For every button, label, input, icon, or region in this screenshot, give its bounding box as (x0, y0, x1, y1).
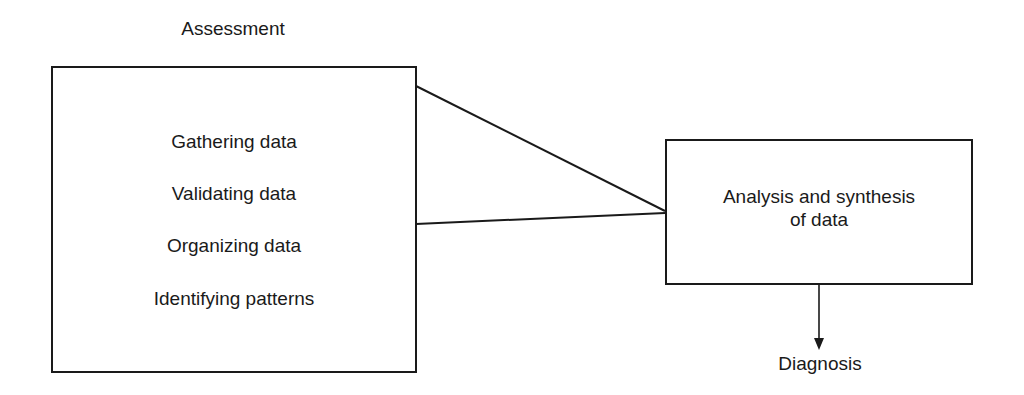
diagnosis-label: Diagnosis (778, 353, 861, 375)
step-validating-data: Validating data (172, 183, 296, 205)
assessment-box: Gathering data Validating data Organizin… (51, 66, 417, 373)
step-identifying-patterns: Identifying patterns (154, 288, 315, 310)
upper-connector-line (416, 86, 665, 211)
arrowhead-icon (814, 338, 824, 350)
analysis-box: Analysis and synthesis of data (665, 139, 973, 285)
step-gathering-data: Gathering data (171, 131, 297, 153)
analysis-box-text: Analysis and synthesis of data (667, 185, 971, 231)
analysis-label-line1: Analysis and synthesis (667, 185, 971, 208)
assessment-title: Assessment (181, 18, 284, 40)
step-organizing-data: Organizing data (167, 235, 301, 257)
analysis-label-line2: of data (667, 208, 971, 231)
lower-connector-line (416, 213, 665, 224)
